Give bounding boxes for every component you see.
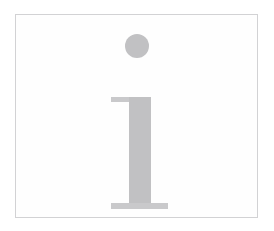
image-frame: i — [15, 14, 258, 218]
letter-i-tittle-dot — [125, 34, 149, 58]
letter-i-character: i — [16, 15, 17, 16]
letter-i-glyph: i — [16, 15, 259, 219]
letter-i-foot-serif — [111, 203, 168, 209]
letter-i-stem — [129, 97, 151, 209]
image-canvas: i — [0, 0, 274, 231]
